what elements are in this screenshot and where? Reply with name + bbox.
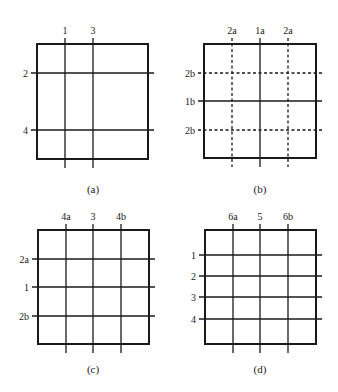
horizontal-line-label: 1b <box>185 96 195 107</box>
vertical-line-label: 6b <box>283 211 293 222</box>
horizontal-line-label: 2b <box>19 311 29 322</box>
vertical-line-label: 1 <box>63 25 68 36</box>
horizontal-line-label: 2b <box>185 68 195 79</box>
horizontal-line-label: 1 <box>191 250 196 261</box>
panel-caption: (b) <box>254 183 267 196</box>
horizontal-line-label: 3 <box>191 292 196 303</box>
horizontal-line-label: 4 <box>191 314 196 325</box>
diagram-canvas: 1324(a)2a1a2a2b1b2b(b)4a34b2a12b(c)6a56b… <box>0 0 338 392</box>
vertical-line-label: 3 <box>91 25 96 36</box>
horizontal-line-label: 2a <box>20 254 30 265</box>
horizontal-line-label: 1 <box>24 282 29 293</box>
panel-caption: (c) <box>87 363 100 376</box>
vertical-line-label: 3 <box>91 211 96 222</box>
vertical-line-label: 4a <box>61 211 71 222</box>
panel-caption: (a) <box>87 183 100 196</box>
horizontal-line-label: 2 <box>23 68 28 79</box>
vertical-line-label: 2a <box>283 25 293 36</box>
vertical-line-label: 6a <box>228 211 238 222</box>
horizontal-line-label: 4 <box>23 125 28 136</box>
vertical-line-label: 5 <box>258 211 263 222</box>
vertical-line-label: 4b <box>116 211 126 222</box>
horizontal-line-label: 2 <box>191 271 196 282</box>
panel-caption: (d) <box>254 363 267 376</box>
panel-b: 2a1a2a2b1b2b(b) <box>185 25 322 196</box>
vertical-line-label: 1a <box>255 25 265 36</box>
vertical-line-label: 2a <box>227 25 237 36</box>
panel-d: 6a56b1234(d) <box>191 211 322 376</box>
panel-a: 1324(a) <box>23 25 154 196</box>
horizontal-line-label: 2b <box>185 125 195 136</box>
panel-c: 4a34b2a12b(c) <box>19 211 155 376</box>
